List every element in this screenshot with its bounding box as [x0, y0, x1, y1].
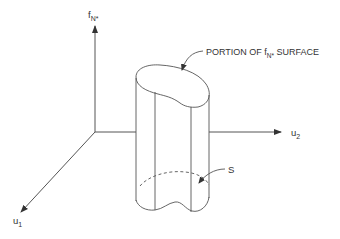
region-label: S — [228, 164, 234, 175]
diagonal-axis — [21, 132, 95, 212]
region-label-leader — [199, 169, 225, 183]
horizontal-axis-label: u2 — [291, 127, 300, 140]
diagonal-axis-label: u1 — [13, 215, 22, 228]
surface-label: PORTION OF fN* SURFACE — [206, 47, 319, 59]
surface-label-leader — [182, 51, 203, 70]
diagram-canvas: fN* u2 u1 — [0, 0, 340, 239]
vertical-axis-label: fN* — [88, 9, 99, 22]
surface-portion-shape — [136, 65, 209, 212]
